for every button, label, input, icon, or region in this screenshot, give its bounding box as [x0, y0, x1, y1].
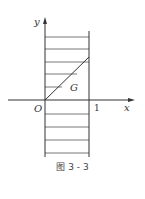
- x-axis-label: x: [124, 102, 130, 113]
- origin-label: O: [34, 103, 42, 114]
- region-label-g: G: [70, 82, 78, 93]
- y-axis-arrow-icon: [43, 17, 47, 24]
- x-tick-one: 1: [94, 103, 100, 113]
- y-axis-label: y: [33, 16, 40, 27]
- figure-caption: 图 3 - 3: [0, 160, 145, 173]
- line-y-equals-x: [45, 57, 89, 100]
- hatch-lines: [45, 37, 89, 153]
